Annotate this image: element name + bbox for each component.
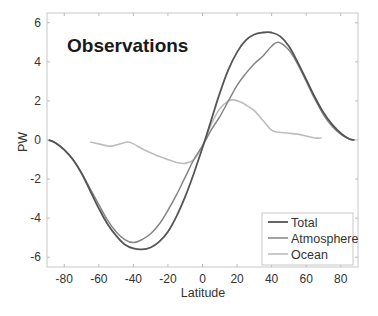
- legend: TotalAtmosphereOcean: [262, 213, 358, 265]
- x-tick-label: -60: [90, 272, 108, 286]
- y-tick-label: 4: [34, 55, 41, 69]
- chart-title: Observations: [67, 35, 188, 56]
- legend-label-atmosphere: Atmosphere: [291, 232, 358, 246]
- y-tick-label: -2: [30, 172, 41, 186]
- x-tick-label: 0: [199, 272, 206, 286]
- y-tick-label: 0: [34, 133, 41, 147]
- x-tick-label: -40: [125, 272, 143, 286]
- x-tick-label: 80: [334, 272, 348, 286]
- chart-canvas: -6-4-20246 -80-60-40-20020406080 Observa…: [0, 0, 378, 316]
- legend-label-ocean: Ocean: [291, 248, 328, 262]
- y-tick-label: -4: [30, 211, 41, 225]
- x-tick-label: 20: [230, 272, 244, 286]
- y-axis-label: PW: [16, 132, 30, 152]
- x-tick-label: 40: [265, 272, 279, 286]
- y-tick-label: 2: [34, 94, 41, 108]
- x-tick-label: 60: [299, 272, 313, 286]
- x-tick-label: -80: [56, 272, 74, 286]
- y-tick-label: -6: [30, 250, 41, 264]
- x-tick-label: -20: [159, 272, 177, 286]
- x-axis-label: Latitude: [181, 286, 226, 300]
- legend-label-total: Total: [291, 216, 317, 230]
- y-tick-label: 6: [34, 16, 41, 30]
